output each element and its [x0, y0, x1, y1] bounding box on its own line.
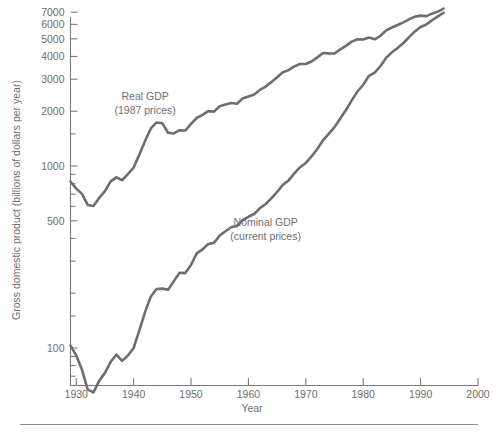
tick-marks — [71, 12, 479, 385]
x-tick-label: 1940 — [122, 388, 146, 400]
y-tick-label: 1000 — [41, 160, 65, 172]
y-tick-label: 500 — [47, 215, 65, 227]
x-tick-label: 1950 — [179, 388, 203, 400]
nominal-gdp-label-line: (current prices) — [230, 230, 301, 242]
x-tick-label: 1980 — [352, 388, 376, 400]
nominal-gdp-label: Nominal GDP(current prices) — [230, 216, 301, 242]
series-line — [71, 13, 444, 393]
y-tick-label: 100 — [47, 342, 65, 354]
y-tick-label: 2000 — [41, 105, 65, 117]
x-tick-label: 1970 — [294, 388, 318, 400]
x-tick-label: 2000 — [466, 388, 490, 400]
y-tick-label: 5000 — [41, 33, 65, 45]
real-gdp-label-line: (1987 prices) — [114, 104, 175, 116]
x-axis-title: Year — [241, 402, 263, 414]
data-series — [71, 9, 444, 393]
y-axis-title: Gross domestic product (billions of doll… — [10, 80, 22, 320]
y-tick-label: 3000 — [41, 73, 65, 85]
gdp-log-line-chart: 1005001000200030004000500060007000193019… — [0, 0, 498, 442]
x-tick-label: 1960 — [237, 388, 261, 400]
nominal-gdp-label-line: Nominal GDP — [234, 216, 298, 228]
chart-figure: 1005001000200030004000500060007000193019… — [0, 0, 498, 442]
y-tick-label: 7000 — [41, 6, 65, 18]
y-tick-label: 4000 — [41, 50, 65, 62]
real-gdp-label-line: Real GDP — [121, 90, 168, 102]
footer-divider — [20, 424, 478, 425]
x-tick-label: 1930 — [65, 388, 89, 400]
x-tick-label: 1990 — [409, 388, 433, 400]
y-tick-label: 6000 — [41, 18, 65, 30]
axes — [71, 17, 479, 386]
real-gdp-label: Real GDP(1987 prices) — [114, 90, 175, 116]
